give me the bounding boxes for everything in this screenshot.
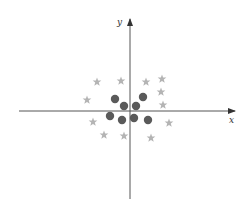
star-marker-icon [147, 133, 156, 141]
x-axis-label: x [229, 115, 234, 125]
star-marker-icon [83, 95, 92, 103]
circle-marker-icon [118, 116, 126, 124]
star-marker-icon [165, 118, 174, 126]
star-marker-icon [158, 74, 167, 82]
star-points [83, 74, 174, 141]
circle-points [106, 93, 152, 124]
circle-marker-icon [130, 114, 138, 122]
star-marker-icon [93, 77, 102, 85]
circle-marker-icon [106, 112, 114, 120]
scatter-diagram: x y [0, 0, 251, 213]
star-marker-icon [120, 131, 129, 139]
star-marker-icon [159, 100, 168, 108]
star-marker-icon [89, 117, 98, 125]
circle-marker-icon [120, 102, 128, 110]
star-marker-icon [142, 77, 151, 85]
star-marker-icon [117, 76, 126, 84]
star-marker-icon [100, 130, 109, 138]
circle-marker-icon [111, 95, 119, 103]
circle-marker-icon [132, 102, 140, 110]
circle-marker-icon [139, 93, 147, 101]
y-axis-label: y [116, 17, 123, 27]
star-marker-icon [157, 87, 166, 95]
circle-marker-icon [144, 116, 152, 124]
